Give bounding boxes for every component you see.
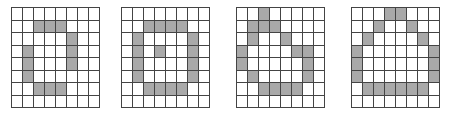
filled-cell [133,46,144,59]
empty-cell [418,21,429,34]
empty-cell [67,83,78,96]
filled-cell [248,21,259,34]
filled-cell [133,58,144,71]
empty-cell [78,21,89,34]
empty-cell [45,71,56,84]
empty-cell [144,46,155,59]
filled-cell [34,21,45,34]
filled-cell [237,58,248,71]
empty-cell [45,33,56,46]
filled-cell [352,46,363,59]
empty-cell [385,71,396,84]
empty-cell [67,71,78,84]
empty-cell [292,58,303,71]
empty-cell [374,96,385,109]
empty-cell [12,83,23,96]
filled-cell [248,33,259,46]
filled-cell [363,83,374,96]
empty-cell [352,8,363,21]
empty-cell [56,58,67,71]
filled-cell [418,33,429,46]
empty-cell [292,8,303,21]
filled-cell [166,21,177,34]
empty-cell [56,96,67,109]
empty-cell [270,46,281,59]
empty-cell [199,58,210,71]
empty-cell [429,96,440,109]
pattern-3 [236,7,325,108]
empty-cell [248,46,259,59]
empty-cell [12,96,23,109]
empty-cell [166,71,177,84]
empty-cell [199,46,210,59]
filled-cell [396,8,407,21]
empty-cell [352,33,363,46]
empty-cell [34,96,45,109]
empty-cell [237,8,248,21]
empty-cell [12,58,23,71]
empty-cell [270,58,281,71]
empty-cell [199,71,210,84]
filled-cell [34,83,45,96]
empty-cell [418,46,429,59]
empty-cell [23,8,34,21]
filled-cell [259,21,270,34]
filled-cell [188,58,199,71]
empty-cell [78,46,89,59]
empty-cell [89,58,100,71]
empty-cell [56,33,67,46]
filled-cell [429,46,440,59]
empty-cell [12,71,23,84]
filled-cell [259,8,270,21]
empty-cell [407,8,418,21]
empty-cell [166,58,177,71]
filled-cell [67,46,78,59]
empty-cell [292,33,303,46]
empty-cell [67,21,78,34]
empty-cell [237,71,248,84]
empty-cell [407,33,418,46]
empty-cell [23,83,34,96]
filled-cell [237,46,248,59]
pattern-1 [11,7,100,108]
empty-cell [385,46,396,59]
empty-cell [166,96,177,109]
empty-cell [78,33,89,46]
filled-cell [292,83,303,96]
empty-cell [407,96,418,109]
empty-cell [314,96,325,109]
empty-cell [385,21,396,34]
empty-cell [303,83,314,96]
empty-cell [429,83,440,96]
empty-cell [396,58,407,71]
filled-cell [67,33,78,46]
empty-cell [188,8,199,21]
empty-cell [56,71,67,84]
empty-cell [34,46,45,59]
empty-cell [34,33,45,46]
empty-cell [281,46,292,59]
empty-cell [314,83,325,96]
empty-cell [363,46,374,59]
empty-cell [155,58,166,71]
filled-cell [259,83,270,96]
empty-cell [89,8,100,21]
empty-cell [56,46,67,59]
empty-cell [292,71,303,84]
empty-cell [385,58,396,71]
empty-cell [363,58,374,71]
filled-cell [23,46,34,59]
filled-cell [385,8,396,21]
empty-cell [281,96,292,109]
empty-cell [237,33,248,46]
empty-cell [177,8,188,21]
empty-cell [199,96,210,109]
empty-cell [374,58,385,71]
empty-cell [396,33,407,46]
empty-cell [12,33,23,46]
empty-cell [177,71,188,84]
empty-cell [155,96,166,109]
empty-cell [407,58,418,71]
empty-cell [259,58,270,71]
empty-cell [363,21,374,34]
